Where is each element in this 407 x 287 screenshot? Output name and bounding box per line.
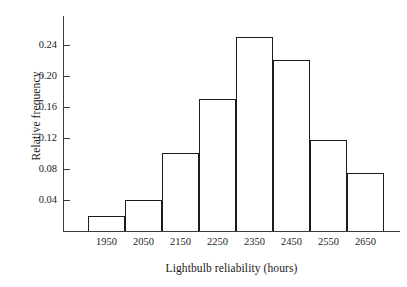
y-axis-tick: [64, 76, 70, 77]
histogram-bar: [310, 140, 347, 231]
y-axis-tick: [64, 200, 70, 201]
histogram-bar: [347, 173, 384, 231]
y-axis-tick: [64, 45, 70, 46]
y-axis-tick-label: 0.12: [17, 133, 57, 144]
histogram-bar: [199, 99, 236, 231]
y-axis-tick-label: 0.24: [17, 40, 57, 51]
y-axis-tick: [64, 138, 70, 139]
y-axis-tick: [64, 107, 70, 108]
plot-area: [63, 16, 400, 232]
histogram-bar: [273, 60, 310, 231]
y-axis-tick-label: 0.16: [17, 102, 57, 113]
x-axis-tick-label: 2650: [343, 236, 388, 248]
y-axis-tick-label: 0.04: [17, 195, 57, 206]
x-axis-tick-labels: 19502050215022502350245025502650: [63, 236, 400, 252]
y-axis-tick-label: 0.08: [17, 164, 57, 175]
histogram-bar: [88, 216, 125, 232]
y-axis-tick: [64, 169, 70, 170]
histogram-bar: [162, 153, 199, 231]
x-axis-title: Lightbulb reliability (hours): [63, 262, 400, 274]
x-axis-line: [63, 231, 400, 232]
y-axis-tick-labels: 0.040.080.120.160.200.24: [0, 0, 63, 287]
histogram-figure: Relative frequency 0.040.080.120.160.200…: [0, 0, 407, 287]
histogram-bar: [236, 37, 273, 231]
y-axis-tick-label: 0.20: [17, 71, 57, 82]
histogram-bar: [125, 200, 162, 231]
